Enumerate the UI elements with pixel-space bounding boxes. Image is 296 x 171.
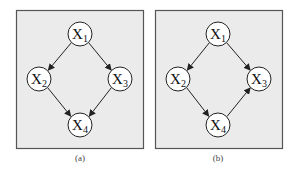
node-b-x4: X4	[206, 113, 230, 137]
node-b-x3-subscript: 3	[262, 78, 267, 89]
node-b-x2-label: X	[170, 71, 181, 87]
node-b-x1-label: X	[210, 26, 221, 42]
node-b-x1: X1	[206, 22, 230, 46]
figure: X1 X2 X3 X4 (a)	[0, 0, 296, 171]
node-a-x1: X1	[68, 22, 92, 46]
node-a-x2: X2	[27, 67, 51, 91]
node-b-x4-subscript: 4	[221, 124, 226, 135]
node-b-x3-label: X	[251, 71, 262, 87]
node-a-x3-label: X	[112, 71, 123, 87]
node-a-x3: X3	[108, 67, 132, 91]
node-a-x1-label: X	[72, 26, 83, 42]
node-b-x1-subscript: 1	[221, 33, 226, 44]
panel-b-caption: (b)	[213, 153, 224, 163]
node-a-x2-label: X	[31, 71, 42, 87]
node-a-x4-label: X	[72, 117, 83, 133]
node-b-x2-subscript: 2	[181, 78, 186, 89]
node-b-x4-label: X	[210, 117, 221, 133]
panel-a: X1 X2 X3 X4 (a)	[17, 11, 144, 164]
node-a-x3-subscript: 3	[123, 78, 128, 89]
node-b-x2: X2	[166, 67, 190, 91]
panel-b: X1 X2 X3 X4 (b)	[156, 11, 283, 164]
node-a-x4-subscript: 4	[83, 124, 88, 135]
node-b-x3: X3	[247, 67, 271, 91]
node-a-x1-subscript: 1	[83, 33, 88, 44]
node-a-x4: X4	[68, 113, 92, 137]
node-a-x2-subscript: 2	[42, 78, 47, 89]
panel-a-caption: (a)	[75, 153, 85, 163]
